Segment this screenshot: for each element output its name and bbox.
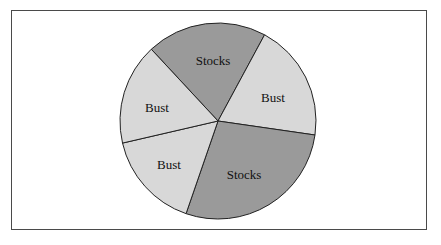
slice-label-upperleft-bust: Bust	[145, 100, 169, 115]
slice-label-bottom-stocks: Stocks	[227, 167, 262, 182]
slice-label-lowerleft-bust: Bust	[157, 157, 181, 172]
slice-label-right-bust: Bust	[261, 90, 285, 105]
slice-label-top-stocks: Stocks	[196, 53, 231, 68]
pie-chart: Stocks Bust Stocks Bust Bust	[0, 0, 441, 245]
